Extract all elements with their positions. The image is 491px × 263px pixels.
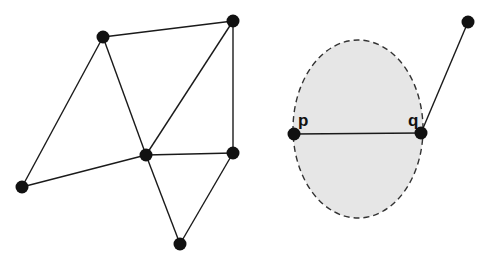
- diagram-canvas: p q: [0, 0, 491, 263]
- left-edge: [146, 21, 233, 155]
- left-node-n1: [97, 31, 110, 44]
- left-edge: [180, 153, 233, 244]
- left-graph-nodes: [16, 15, 240, 251]
- left-edge: [103, 21, 233, 37]
- left-node-n4: [227, 147, 240, 160]
- left-edge: [22, 37, 103, 187]
- right-node-r: [462, 16, 475, 29]
- diametral-disk: [293, 40, 423, 218]
- left-node-n3: [140, 149, 153, 162]
- left-edge: [146, 155, 180, 244]
- left-node-n5: [16, 181, 29, 194]
- right-edge: [294, 133, 421, 134]
- left-edge: [103, 37, 146, 155]
- label-q: q: [408, 111, 418, 130]
- left-edge: [146, 153, 233, 155]
- left-edge: [22, 155, 146, 187]
- left-node-n2: [227, 15, 240, 28]
- left-node-n6: [174, 238, 187, 251]
- left-graph-edges: [22, 21, 233, 244]
- label-p: p: [298, 111, 308, 130]
- right-edge: [421, 22, 468, 133]
